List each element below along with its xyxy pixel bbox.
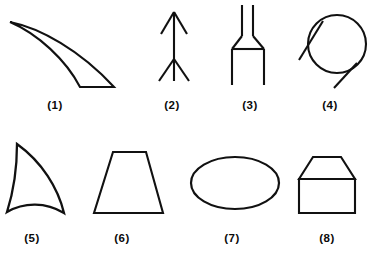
figure-6-caption: (6): [114, 233, 129, 245]
figure-8-house-pentagon: [293, 152, 365, 218]
figure-3-caption: (3): [242, 100, 257, 112]
figure-1-curved-blade: [4, 8, 126, 94]
figure-8-caption: (8): [319, 233, 334, 245]
figure-5-curved-fin: [4, 138, 72, 220]
figure-4-caption: (4): [322, 100, 337, 112]
figure-plate: (1) (2): [0, 0, 379, 257]
figure-2-caption: (2): [164, 100, 179, 112]
figure-3-fork-connector: [225, 3, 279, 89]
figure-7-ellipse: [187, 152, 283, 214]
figure-6-trapezoid: [90, 148, 168, 218]
figure-4-circle-with-tangent-lines: [296, 8, 368, 92]
figure-1-caption: (1): [47, 100, 62, 112]
figure-2-arrow-up: [148, 8, 200, 86]
figure-7-caption: (7): [224, 233, 239, 245]
figure-5-caption: (5): [24, 233, 39, 245]
